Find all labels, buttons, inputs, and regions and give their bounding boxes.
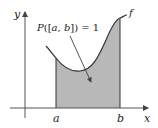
probability-annotation: P([a, b]) = 1 (36, 22, 99, 33)
y-axis-label: y (13, 8, 21, 21)
interval-label-a: a (53, 112, 60, 125)
x-axis-label: x (144, 112, 151, 125)
interval-label-b: b (117, 112, 124, 125)
density-diagram: y x f a b P([a, b]) = 1 (0, 0, 158, 128)
curve-label-f: f (128, 7, 135, 18)
